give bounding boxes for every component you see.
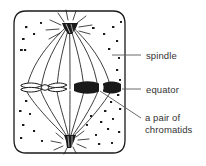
label-chromatids-line1: a pair of bbox=[145, 112, 180, 123]
label-spindle: spindle bbox=[146, 50, 177, 62]
chromosome-pair-outline bbox=[21, 83, 67, 92]
diagram-page: spindle equator a pair of chromatids bbox=[0, 0, 206, 166]
chromosome-pair-solid bbox=[74, 81, 121, 93]
label-equator: equator bbox=[146, 84, 179, 96]
mitosis-diagram bbox=[0, 0, 206, 166]
label-chromatids: a pair of chromatids bbox=[145, 112, 192, 135]
label-chromatids-line2: chromatids bbox=[145, 124, 192, 136]
